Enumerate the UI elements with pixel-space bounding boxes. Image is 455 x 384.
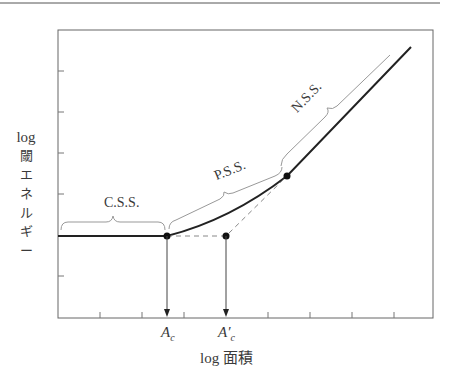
y-axis-char: 閾 <box>8 146 44 165</box>
y-axis-char: エ <box>8 165 44 184</box>
y-axis-char: ー <box>8 241 44 260</box>
brace-css <box>61 216 165 230</box>
x-ticks <box>100 312 394 318</box>
extrapolation-dashed-line <box>167 176 287 236</box>
arrowhead-ac-icon <box>164 309 170 317</box>
marker-acp-main: A′ <box>218 324 230 340</box>
point-nss-start <box>284 173 291 180</box>
marker-ac-sub: c <box>170 332 174 343</box>
marker-ac-main: A <box>161 324 170 340</box>
region-css-label: C.S.S. <box>104 195 139 211</box>
marker-acp-sub: c <box>230 332 234 343</box>
y-axis-label: log 閾 エ ネ ル ギ ー <box>8 128 44 260</box>
plot-frame <box>58 30 433 318</box>
x-axis-label: log 面積 <box>200 346 253 367</box>
y-ticks <box>58 71 64 276</box>
marker-ac-label: Ac <box>161 324 175 343</box>
marker-acp-label: A′c <box>218 324 235 343</box>
y-axis-log: log <box>16 129 35 145</box>
arrowhead-acp-icon <box>223 309 229 317</box>
y-axis-char: ル <box>8 203 44 222</box>
y-axis-char: ネ <box>8 184 44 203</box>
y-axis-char: ギ <box>8 222 44 241</box>
